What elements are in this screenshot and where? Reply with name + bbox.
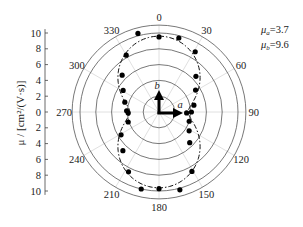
data-point: [193, 49, 198, 54]
angle-tick-label: 90: [249, 107, 260, 118]
data-point: [121, 88, 126, 93]
data-point: [177, 187, 182, 192]
data-point: [193, 87, 198, 92]
legend-entry: μa=3.7: [260, 24, 289, 37]
angle-tick-label: 330: [104, 25, 120, 36]
radial-tick-label: 10: [31, 186, 42, 197]
data-point: [187, 119, 192, 124]
radial-tick-label: 2: [36, 122, 41, 133]
angle-tick-label: 210: [104, 189, 120, 200]
y-axis-label: μ / [cm²/(V·s)]: [14, 81, 27, 146]
a-axis-label: a: [177, 99, 182, 110]
radial-tick-label: 4: [36, 75, 42, 86]
angle-tick-label: 300: [69, 60, 85, 71]
legend: μa=3.7μb=9.6: [260, 24, 289, 52]
data-point: [156, 34, 161, 39]
grid-spoke: [159, 112, 234, 155]
angle-tick-label: 0: [156, 12, 161, 23]
radial-tick-label: 6: [36, 154, 41, 165]
radial-tick-label: 2: [36, 91, 41, 102]
data-point: [126, 119, 131, 124]
data-point: [187, 140, 192, 145]
data-point: [122, 100, 127, 105]
data-point: [156, 186, 161, 191]
data-point: [124, 108, 129, 113]
data-point: [176, 35, 181, 40]
data-point: [120, 148, 125, 153]
angle-tick-label: 30: [201, 25, 212, 36]
data-point: [135, 31, 140, 36]
radial-tick-label: 6: [36, 59, 41, 70]
data-point: [120, 73, 125, 78]
angle-tick-label: 270: [56, 107, 72, 118]
polar-chart: 0306090120150180210240270300330 10864202…: [0, 0, 303, 227]
data-point: [118, 132, 123, 137]
b-arrowhead-icon: [154, 90, 164, 100]
data-point: [189, 169, 194, 174]
radial-tick-label: 0: [36, 107, 41, 118]
radial-tick-label: 8: [36, 43, 41, 54]
radial-tick-label: 4: [36, 138, 42, 149]
legend-entry: μb=9.6: [260, 39, 289, 52]
data-point: [191, 103, 196, 108]
data-point: [187, 128, 192, 133]
radial-axis: 1086420246810: [31, 28, 49, 197]
radial-tick-label: 10: [31, 28, 42, 39]
angle-tick-label: 240: [69, 154, 85, 165]
angle-tick-label: 60: [236, 60, 247, 71]
data-point: [139, 186, 144, 191]
data-point: [184, 110, 189, 115]
angle-tick-label: 120: [233, 154, 249, 165]
angle-tick-label: 180: [151, 202, 167, 213]
angle-tick-label: 150: [199, 189, 215, 200]
radial-tick-label: 8: [36, 170, 41, 181]
data-point: [193, 74, 198, 79]
data-point: [124, 53, 129, 58]
data-point: [189, 109, 194, 114]
b-axis-label: b: [154, 80, 159, 91]
grid-spoke: [159, 112, 202, 187]
data-point: [126, 169, 131, 174]
